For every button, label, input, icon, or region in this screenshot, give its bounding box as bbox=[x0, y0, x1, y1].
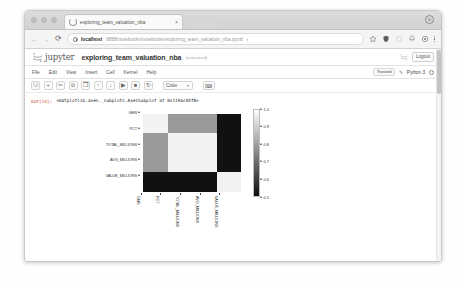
kernel-name-label: Python 3 bbox=[407, 70, 425, 75]
y-tick-mark bbox=[138, 174, 140, 175]
colorbar-gradient bbox=[253, 109, 260, 197]
maximize-window-button[interactable] bbox=[51, 17, 57, 23]
site-info-icon[interactable] bbox=[73, 37, 78, 42]
shield-extension-icon[interactable] bbox=[382, 35, 390, 43]
heatmap-cell bbox=[168, 172, 193, 192]
x-tick-label: PCT bbox=[155, 196, 160, 203]
tab-loading-icon bbox=[69, 18, 77, 26]
autosave-status: (autosaved) bbox=[185, 55, 207, 60]
output-prompt: Out[14]: bbox=[31, 98, 52, 104]
y-tick-mark bbox=[138, 112, 140, 113]
address-bar[interactable]: localhost :8888/notebooks/notebooks/expl… bbox=[67, 33, 364, 45]
tab-close-icon[interactable]: × bbox=[175, 20, 178, 25]
command-palette-button[interactable]: ⌨ bbox=[203, 81, 215, 90]
jupyter-logo-icon bbox=[32, 52, 43, 63]
x-tick-label: TOTAL_MILLIONS bbox=[175, 196, 180, 227]
cell-type-select[interactable]: Code ▾ bbox=[163, 81, 193, 90]
page-content: jupyter exploring_team_valuation_nba (au… bbox=[25, 49, 441, 261]
window-controls[interactable] bbox=[31, 17, 57, 23]
tab-title: exploring_team_valuation_nba bbox=[80, 20, 172, 25]
menu-help[interactable]: Help bbox=[146, 70, 156, 75]
jupyter-logo[interactable]: jupyter bbox=[32, 52, 74, 63]
logout-button[interactable]: Logout bbox=[412, 52, 434, 62]
x-tick-label: VALUE_MILLIONS bbox=[214, 196, 219, 227]
close-window-button[interactable] bbox=[31, 17, 37, 23]
heatmap-cell bbox=[168, 153, 193, 173]
menu-view[interactable]: View bbox=[66, 70, 76, 75]
trusted-badge[interactable]: Trusted bbox=[373, 68, 395, 76]
stop-kernel-button[interactable]: ■ bbox=[131, 81, 140, 90]
run-cell-button[interactable]: ▶ bbox=[119, 81, 128, 90]
heatmap-cell bbox=[217, 114, 242, 134]
colorbar-tick-mark bbox=[260, 143, 262, 144]
vertical-scrollbar[interactable] bbox=[436, 49, 441, 261]
menu-edit[interactable]: Edit bbox=[49, 70, 57, 75]
colorbar-tick-label: 0.5 bbox=[264, 194, 269, 199]
move-cell-down-button[interactable]: ↓ bbox=[106, 81, 115, 90]
bookmark-star-icon[interactable] bbox=[369, 35, 377, 43]
x-tick-mark bbox=[141, 193, 142, 195]
x-tick-mark bbox=[180, 193, 181, 195]
screenshot-root: exploring_team_valuation_nba × ← → ⟳ loc… bbox=[0, 0, 463, 283]
scrollbar-thumb[interactable] bbox=[437, 50, 441, 94]
colorbar-ticks: 1.00.90.80.70.60.5 bbox=[260, 109, 286, 197]
colorbar-tick-label: 0.7 bbox=[264, 159, 269, 164]
menu-file[interactable]: File bbox=[32, 70, 40, 75]
x-tick-label: AVG_MILLIONS bbox=[195, 196, 200, 223]
settings-gear-icon[interactable] bbox=[421, 35, 429, 43]
copy-cell-button[interactable]: ⧉ bbox=[69, 81, 78, 90]
profile-avatar-icon[interactable] bbox=[425, 15, 434, 24]
y-tick-mark bbox=[138, 128, 140, 129]
menu-kernel[interactable]: Kernel bbox=[124, 70, 138, 75]
menu-cell[interactable]: Cell bbox=[106, 70, 114, 75]
colorbar-tick-label: 0.6 bbox=[264, 176, 269, 181]
jupyter-toolbar: 🖫 + ✂ ⧉ ❐ ↑ ↓ ▶ ■ ↻ Code ▾ ⌨ bbox=[25, 79, 441, 93]
notifications-bell-icon[interactable] bbox=[408, 35, 416, 43]
menu-insert[interactable]: Insert bbox=[85, 70, 97, 75]
save-button[interactable]: 🖫 bbox=[31, 81, 40, 90]
forward-button[interactable]: → bbox=[43, 36, 50, 43]
jupyter-header-right: Logout bbox=[400, 52, 434, 62]
y-tick-label: VALUE_MILLIONS bbox=[106, 172, 137, 177]
insert-cell-button[interactable]: + bbox=[44, 81, 53, 90]
browser-action-icons bbox=[369, 35, 435, 43]
heatmap-cell bbox=[192, 172, 217, 192]
browser-toolbar: ← → ⟳ localhost :8888/notebooks/notebook… bbox=[25, 30, 441, 49]
x-tick-mark bbox=[160, 193, 161, 195]
chevron-down-icon: ▾ bbox=[187, 84, 189, 88]
edit-pencil-icon[interactable]: ✎ bbox=[399, 70, 403, 75]
browser-tab-strip: exploring_team_valuation_nba × bbox=[25, 11, 441, 30]
heatmap-cell bbox=[143, 133, 168, 153]
paste-cell-button[interactable]: ❐ bbox=[81, 81, 90, 90]
jupyter-brand-text: jupyter bbox=[45, 52, 74, 62]
heatmap-cell bbox=[192, 133, 217, 153]
heatmap-cell bbox=[168, 114, 193, 134]
x-tick-mark bbox=[200, 193, 201, 195]
cut-cell-button[interactable]: ✂ bbox=[56, 81, 65, 90]
y-tick-label: PCT bbox=[130, 125, 137, 130]
reload-button[interactable]: ⟳ bbox=[55, 35, 62, 43]
y-tick-mark bbox=[138, 159, 140, 160]
heatmap-grid bbox=[143, 114, 241, 192]
notebook-cell-output: Out[14]: <matplotlib.axes._subplots.Axes… bbox=[25, 93, 441, 225]
output-repr-text: <matplotlib.axes._subplots.AxesSubplot a… bbox=[56, 98, 199, 103]
extension-puzzle-icon[interactable] bbox=[395, 35, 403, 43]
heatmap-cell bbox=[217, 153, 242, 173]
colorbar-tick-mark bbox=[260, 196, 262, 197]
browser-tab[interactable]: exploring_team_valuation_nba × bbox=[64, 14, 183, 29]
cell-type-value: Code bbox=[166, 83, 177, 88]
colorbar-tick-mark bbox=[260, 161, 262, 162]
x-tick-mark bbox=[219, 193, 220, 195]
notebook-title[interactable]: exploring_team_valuation_nba bbox=[81, 54, 181, 61]
heatmap-cell bbox=[192, 114, 217, 134]
move-cell-up-button[interactable]: ↑ bbox=[94, 81, 103, 90]
kernel-status-group: Trusted ✎ Python 3 bbox=[373, 68, 434, 76]
colorbar-tick-label: 0.9 bbox=[264, 124, 269, 129]
output-row: Out[14]: <matplotlib.axes._subplots.Axes… bbox=[25, 98, 441, 104]
restart-kernel-button[interactable]: ↻ bbox=[144, 81, 153, 90]
new-tab-button[interactable] bbox=[185, 16, 219, 29]
minimize-window-button[interactable] bbox=[41, 17, 47, 23]
y-tick-mark bbox=[138, 143, 140, 144]
browser-menu-icon[interactable] bbox=[434, 36, 435, 42]
back-button[interactable]: ← bbox=[31, 36, 38, 43]
